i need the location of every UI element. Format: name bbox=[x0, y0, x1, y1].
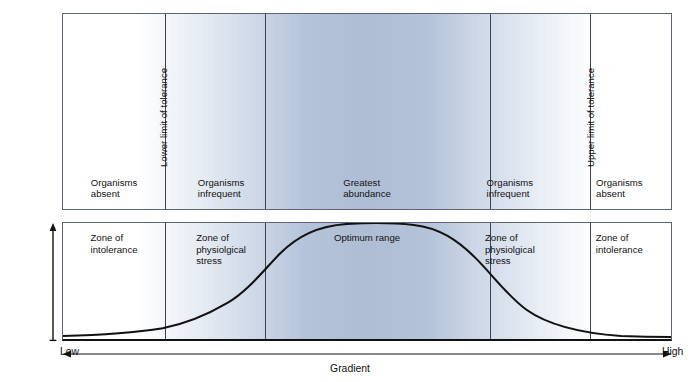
top-zone-label-organisms-infrequent-low: Organisms infrequent bbox=[198, 177, 245, 200]
optimum-range-label: Optimum range bbox=[334, 232, 400, 243]
x-axis-max-label: High bbox=[662, 346, 683, 357]
bottom-zone-label-physiological-stress-high: Zone of physiolgical stress bbox=[485, 232, 535, 267]
top-zone-label-organisms-infrequent-high: Organisms infrequent bbox=[487, 177, 534, 200]
bottom-zone-label-physiological-stress-low: Zone of physiolgical stress bbox=[196, 232, 246, 267]
x-axis-min-label: Low bbox=[60, 346, 79, 357]
top-zone-label-organisms-absent-high: Organisms absent bbox=[596, 177, 643, 200]
bottom-panel-population-curve: Optimum range Zone of intolerance Zone o… bbox=[62, 222, 672, 341]
top-divider-2 bbox=[265, 14, 266, 209]
tolerance-gradient-figure: Organisms absent Organisms infrequent Gr… bbox=[0, 0, 700, 382]
top-zone-label-organisms-absent-low: Organisms absent bbox=[91, 177, 138, 200]
lower-limit-of-tolerance-label: Lower limit of tolerance bbox=[158, 68, 169, 167]
bottom-zone-label-intolerance-low: Zone of intolerance bbox=[90, 232, 137, 255]
y-axis-arrow bbox=[48, 222, 58, 342]
x-axis-label: Gradient bbox=[0, 363, 700, 374]
top-panel-tolerance-zones: Organisms absent Organisms infrequent Gr… bbox=[62, 13, 672, 210]
upper-limit-of-tolerance-label: Upper limit of tolerance bbox=[585, 68, 596, 167]
top-zone-label-greatest-abundance: Greatest abundance bbox=[343, 177, 391, 200]
bottom-zone-label-intolerance-high: Zone of intolerance bbox=[596, 232, 643, 255]
x-axis-arrow bbox=[62, 348, 672, 360]
